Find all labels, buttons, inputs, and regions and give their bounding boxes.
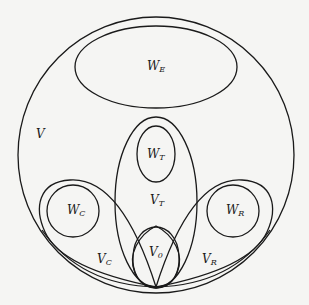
label-wr: WR [226, 204, 244, 218]
label-v0: V0 [149, 246, 163, 260]
label-we: WE [147, 60, 165, 74]
label-vr: VR [202, 253, 217, 267]
label-wc: WC [67, 204, 85, 218]
region-diagram: V WE WT VT WC WR V0 VC VR [0, 0, 309, 305]
region-vc-boundary [39, 180, 156, 287]
label-v: V [36, 128, 45, 140]
label-vc: VC [97, 253, 112, 267]
label-wt: WT [147, 148, 165, 162]
label-vt: VT [150, 194, 164, 208]
region-vr-boundary [156, 180, 273, 287]
